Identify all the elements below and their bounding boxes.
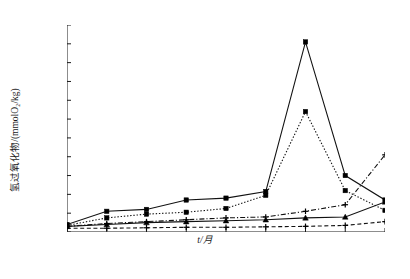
marker-square [224,206,228,210]
plot-area: 024681012141618202202345681215 [67,25,385,232]
axes-group: 024681012141618202202345681215 [67,25,385,232]
marker-square [303,40,307,44]
marker-square [105,209,109,213]
marker-square [144,207,148,211]
marker-square [224,196,228,200]
figure: 氢过氧化物/(mmolO₂/kg) t/月 024681012141618202… [0,0,410,279]
marker-square [184,210,188,214]
marker-square [264,193,268,197]
marker-square [343,173,347,177]
marker-square [105,216,109,220]
chart-svg: 024681012141618202202345681215 [67,25,385,232]
marker-square [343,188,347,192]
marker-square [303,109,307,113]
series-group [67,40,385,231]
y-axis-label: 氢过氧化物/(mmolO₂/kg) [7,88,21,191]
marker-square [144,212,148,216]
marker-square [383,208,385,212]
marker-square [184,198,188,202]
x-axis-label: t/月 [0,232,410,246]
